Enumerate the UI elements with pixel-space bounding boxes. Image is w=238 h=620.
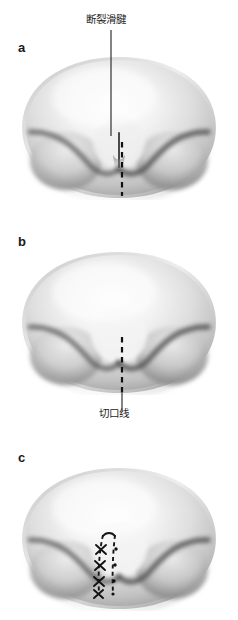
suture-repair-line-c — [82, 530, 142, 605]
dashed-incision-line-a — [0, 140, 238, 202]
panel-letter-c: c — [18, 451, 25, 464]
annotation-label-incision-line: 切口线 — [99, 408, 129, 419]
panel-letter-b: b — [18, 235, 26, 248]
panel-c: c — [0, 420, 238, 620]
annotation-label-ruptured-tendon: 断裂滑腱 — [86, 14, 126, 25]
bottom-caption — [0, 614, 238, 620]
figure-container: 断裂滑腱 a — [0, 0, 238, 620]
panel-b: b — [0, 205, 238, 420]
panel-a: 断裂滑腱 a — [0, 0, 238, 205]
